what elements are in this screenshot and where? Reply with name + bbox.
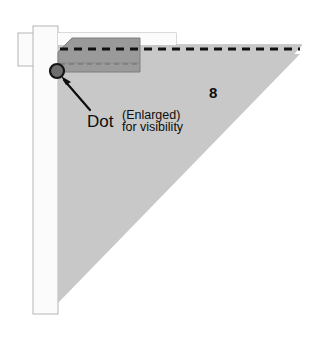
- dot-label: Dot: [87, 112, 114, 131]
- triangle-dot-diagram: Dot (Enlarged) for visibility 8: [0, 0, 313, 339]
- dark-gray-flap: [58, 38, 140, 72]
- dot-marker: [50, 64, 64, 78]
- for-visibility-label: for visibility: [122, 120, 184, 134]
- dimension-label-8: 8: [209, 84, 217, 101]
- diagram-canvas: Dot (Enlarged) for visibility 8: [0, 0, 313, 339]
